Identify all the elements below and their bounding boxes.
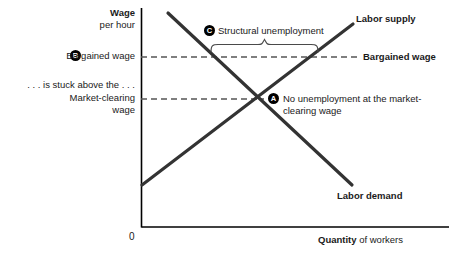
badge-c: C xyxy=(204,25,215,36)
origin-label: 0 xyxy=(129,231,135,243)
labor-supply-label: Labor supply xyxy=(356,13,416,25)
diagram-canvas xyxy=(0,0,449,256)
y-axis-title-main: Wage xyxy=(60,7,135,19)
x-axis-title-sub: of workers xyxy=(357,234,403,245)
labor-market-diagram: Wage per hour Quantity of workers 0 B Ba… xyxy=(0,0,449,256)
y-axis-title-sub: per hour xyxy=(60,19,135,31)
bargained-wage-axis-label: Bargained wage xyxy=(55,50,135,62)
x-axis-title-main: Quantity xyxy=(318,234,357,245)
stuck-above-note: . . . is stuck above the . . . xyxy=(10,79,135,91)
structural-unemployment-brace xyxy=(211,40,318,53)
bargained-wage-line-label: Bargained wage xyxy=(363,51,436,63)
y-axis-title: Wage per hour xyxy=(60,7,135,30)
x-axis-title: Quantity of workers xyxy=(318,234,403,246)
stuck-note-trail: . . . xyxy=(119,79,135,90)
badge-a: A xyxy=(268,93,279,104)
structural-unemployment-label: Structural unemployment xyxy=(218,25,324,37)
market-clearing-wage-axis-label: Market-clearing wage xyxy=(50,92,135,115)
labor-demand-label: Labor demand xyxy=(337,190,402,202)
stuck-note-lead: . . . xyxy=(27,79,43,90)
no-unemployment-label: No unemployment at the market-clearing w… xyxy=(283,93,433,116)
stuck-note-italic: is stuck above the xyxy=(43,79,119,90)
